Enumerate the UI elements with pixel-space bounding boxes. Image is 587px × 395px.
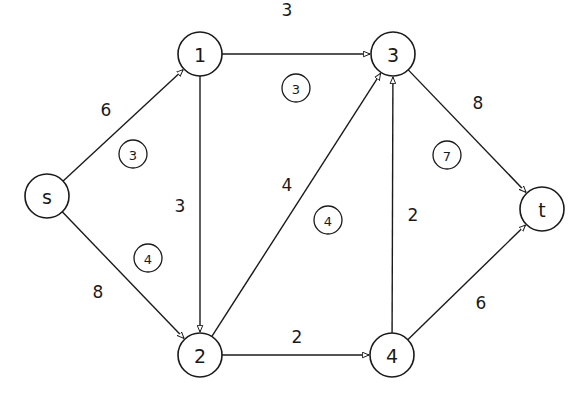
node-s: s bbox=[25, 174, 69, 218]
edge-line bbox=[392, 77, 393, 333]
node-1: 1 bbox=[178, 32, 222, 76]
region-label: 4 bbox=[144, 252, 152, 267]
flow-network-diagram: 683342286 34347 s13t24 bbox=[0, 0, 587, 395]
node-4: 4 bbox=[370, 333, 414, 377]
edge-line bbox=[408, 70, 526, 193]
region-label: 7 bbox=[443, 149, 451, 164]
regions: 34347 bbox=[119, 74, 461, 272]
edge-weight-label: 3 bbox=[175, 196, 186, 216]
edge-s-to-2: 8 bbox=[62, 212, 184, 339]
node-3: 3 bbox=[371, 32, 415, 76]
edges: 683342286 bbox=[62, 0, 526, 355]
node-label: 4 bbox=[386, 345, 398, 367]
edge-2-to-4: 2 bbox=[222, 327, 369, 355]
region-label: 3 bbox=[292, 82, 300, 97]
region-marker: 7 bbox=[433, 141, 461, 169]
edge-2-to-3: 4 bbox=[212, 73, 381, 336]
edge-1-to-2: 3 bbox=[175, 76, 200, 332]
edge-weight-label: 6 bbox=[101, 100, 112, 120]
edge-weight-label: 2 bbox=[408, 205, 419, 225]
node-t: t bbox=[520, 187, 564, 231]
region-label: 4 bbox=[324, 214, 332, 229]
edge-weight-label: 8 bbox=[473, 93, 484, 113]
edge-4-to-t: 6 bbox=[408, 225, 526, 340]
node-label: 2 bbox=[194, 345, 206, 367]
edge-weight-label: 2 bbox=[292, 327, 303, 347]
edge-line bbox=[62, 212, 184, 339]
node-2: 2 bbox=[178, 333, 222, 377]
edge-line bbox=[212, 73, 381, 336]
edge-1-to-3: 3 bbox=[222, 0, 370, 54]
edge-weight-label: 8 bbox=[93, 282, 104, 302]
region-label: 3 bbox=[129, 148, 137, 163]
node-label: s bbox=[42, 186, 52, 208]
node-label: 3 bbox=[387, 44, 399, 66]
edge-weight-label: 4 bbox=[282, 175, 293, 195]
edge-4-to-3: 2 bbox=[392, 77, 418, 333]
node-label: 1 bbox=[194, 44, 206, 66]
node-label: t bbox=[538, 199, 545, 221]
edge-3-to-t: 8 bbox=[408, 70, 526, 193]
edge-line bbox=[408, 225, 526, 340]
region-marker: 4 bbox=[134, 244, 162, 272]
region-marker: 3 bbox=[119, 140, 147, 168]
edge-weight-label: 6 bbox=[476, 293, 487, 313]
edge-weight-label: 3 bbox=[282, 0, 293, 20]
region-marker: 3 bbox=[282, 74, 310, 102]
region-marker: 4 bbox=[314, 206, 342, 234]
